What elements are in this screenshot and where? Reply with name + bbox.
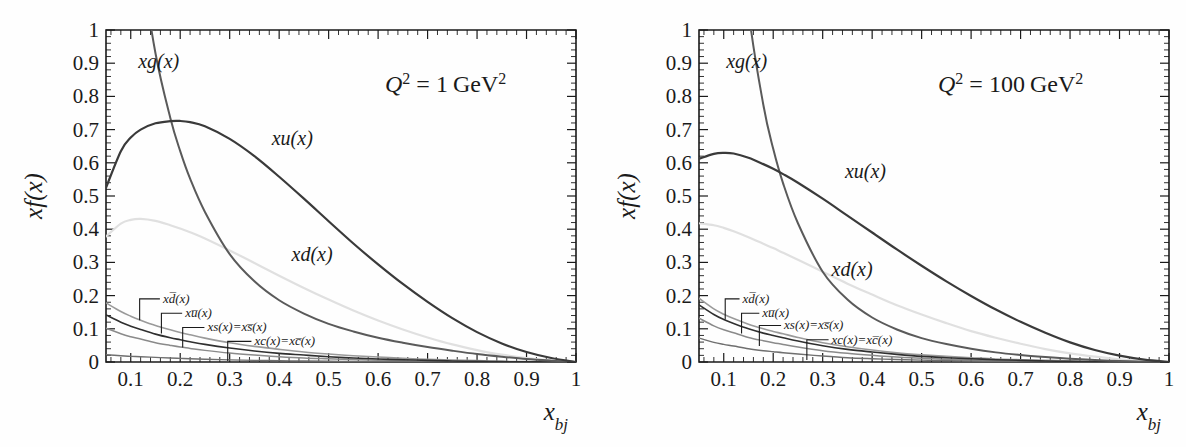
y-tick-labels: 00.10.20.30.40.50.60.70.80.91 <box>666 18 693 374</box>
svg-text:Q2=100GeV2: Q2=100GeV2 <box>938 70 1083 98</box>
y-tick-label: 0.5 <box>73 184 99 208</box>
inline-curve-labels: xg(x)xu(x)xd(x) <box>137 50 333 266</box>
y-tick-label: 0.1 <box>666 317 692 341</box>
x-tick-label: 0.9 <box>1106 367 1132 391</box>
callout-label: xd̅(x) <box>742 291 770 306</box>
plot-area-left: 0.10.20.30.40.50.60.70.80.9100.10.20.30.… <box>0 0 593 447</box>
x-tick-label: 0.3 <box>217 367 243 391</box>
callout-label: xd̅(x) <box>162 291 190 306</box>
curve-label: xd(x) <box>291 243 333 266</box>
y-axis-label: xf(x) <box>20 173 48 220</box>
y-tick-label: 0.3 <box>666 250 692 274</box>
x-tick-label: 1 <box>1164 367 1175 391</box>
pdf-figure: 0.10.20.30.40.50.60.70.80.9100.10.20.30.… <box>0 0 1186 447</box>
y-tick-label: 0.9 <box>666 51 692 75</box>
curve-label: xg(x) <box>137 50 179 73</box>
y-tick-label: 1 <box>89 18 100 42</box>
callout-label: xs(x)=xs̅(x) <box>783 317 843 332</box>
y-axis-label: xf(x) <box>613 173 641 220</box>
x-tick-label: 0.8 <box>1057 367 1083 391</box>
x-tick-label: 0.4 <box>266 367 293 391</box>
y-tick-label: 0.2 <box>73 284 99 308</box>
curve-xdbar-x- <box>106 303 576 362</box>
y-tick-label: 0 <box>682 350 693 374</box>
x-tick-label: 0.9 <box>513 367 539 391</box>
x-tick-label: 0.6 <box>958 367 984 391</box>
curve-label: xu(x) <box>271 127 313 150</box>
y-tick-label: 0.9 <box>73 51 99 75</box>
y-tick-labels: 00.10.20.30.40.50.60.70.80.91 <box>73 18 100 374</box>
x-tick-label: 0.5 <box>316 367 342 391</box>
plot-area-right: 0.10.20.30.40.50.60.70.80.9100.10.20.30.… <box>593 0 1186 447</box>
q-squared-annotation: Q2=1GeV2 <box>385 70 506 98</box>
curve-label: xd(x) <box>831 258 873 281</box>
y-tick-label: 0.2 <box>666 284 692 308</box>
x-tick-label: 0.2 <box>167 367 193 391</box>
svg-text:Q2=1GeV2: Q2=1GeV2 <box>385 70 506 98</box>
callout-label: xu̅(x) <box>184 305 212 320</box>
x-tick-labels: 0.10.20.30.40.50.60.70.80.91 <box>711 367 1175 391</box>
y-tick-label: 0 <box>89 350 100 374</box>
y-tick-label: 0.6 <box>666 151 692 175</box>
y-tick-label: 0.7 <box>73 118 99 142</box>
x-tick-label: 0.3 <box>810 367 836 391</box>
x-tick-label: 0.7 <box>1007 367 1033 391</box>
curve-label: xg(x) <box>725 50 767 73</box>
q-squared-annotation: Q2=100GeV2 <box>938 70 1083 98</box>
inline-curve-labels: xg(x)xu(x)xd(x) <box>725 50 886 281</box>
x-tick-label: 0.2 <box>760 367 786 391</box>
x-tick-label: 0.7 <box>414 367 440 391</box>
x-tick-label: 0.8 <box>464 367 490 391</box>
y-tick-label: 0.7 <box>666 118 692 142</box>
y-tick-label: 0.8 <box>666 84 692 108</box>
x-axis-label: xbj <box>543 398 569 434</box>
curve-xu-x- <box>106 121 576 362</box>
y-tick-label: 0.8 <box>73 84 99 108</box>
y-tick-label: 0.3 <box>73 250 99 274</box>
y-tick-label: 0.4 <box>73 217 100 241</box>
x-tick-label: 0.5 <box>909 367 935 391</box>
y-tick-label: 0.1 <box>73 317 99 341</box>
x-tick-label: 1 <box>571 367 582 391</box>
panel-right: 0.10.20.30.40.50.60.70.80.9100.10.20.30.… <box>593 0 1186 447</box>
y-tick-label: 0.5 <box>666 184 692 208</box>
x-tick-label: 0.4 <box>859 367 886 391</box>
x-tick-label: 0.1 <box>118 367 144 391</box>
x-tick-labels: 0.10.20.30.40.50.60.70.80.91 <box>118 367 582 391</box>
x-tick-label: 0.1 <box>711 367 737 391</box>
callout-label: xs(x)=xs̅(x) <box>206 319 266 334</box>
y-tick-label: 0.6 <box>73 151 99 175</box>
x-tick-label: 0.6 <box>365 367 391 391</box>
y-tick-label: 1 <box>682 18 693 42</box>
panel-left: 0.10.20.30.40.50.60.70.80.9100.10.20.30.… <box>0 0 593 447</box>
x-axis-label: xbj <box>1136 398 1162 434</box>
curve-label: xu(x) <box>844 160 886 183</box>
y-tick-label: 0.4 <box>666 217 693 241</box>
callout-label: xc(x)=xc̅(x) <box>831 332 893 347</box>
callout-label: xc(x)=xc̅(x) <box>253 333 315 348</box>
